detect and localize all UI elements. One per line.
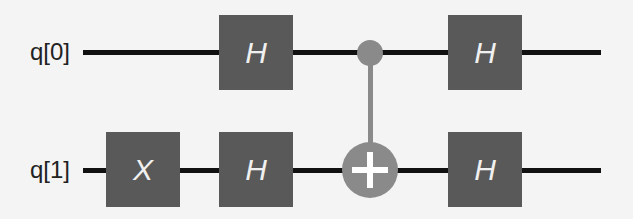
cnot-connector [368, 53, 373, 153]
cnot-target[interactable] [342, 142, 398, 198]
qubit-label-q0: q[0] [30, 38, 70, 66]
h-gate-q0-step1[interactable]: H [219, 15, 293, 90]
h-gate-q1-step1[interactable]: H [219, 132, 293, 207]
x-gate-q1-step0[interactable]: X [106, 132, 180, 207]
plus-icon-v [367, 152, 373, 188]
cnot-control-dot[interactable] [357, 40, 383, 66]
wire-q0 [83, 50, 601, 55]
h-gate-q0-step3[interactable]: H [448, 15, 522, 90]
qubit-label-q1: q[1] [30, 156, 70, 184]
h-gate-q1-step3[interactable]: H [448, 132, 522, 207]
